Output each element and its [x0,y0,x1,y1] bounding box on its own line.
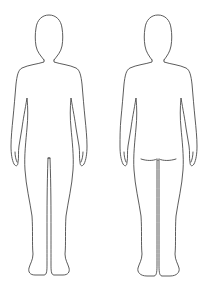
back-head-outline [144,15,172,60]
front-head-outline [35,15,63,60]
front-body-outline [11,60,87,275]
front-left-hand-detail [15,152,17,162]
back-left-hand-detail [124,152,126,162]
back-right-hand-detail [191,152,193,162]
front-right-hand-detail [81,152,83,162]
front-body-figure: Front view of human body outline [11,15,87,275]
back-body-outline [120,60,197,276]
body-diagram: Body outline chart Front view of human b… [0,0,209,295]
back-body-figure: Back view of human body outline [120,15,197,276]
